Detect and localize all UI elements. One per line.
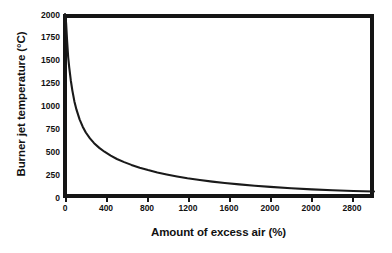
x-tick-label: 2800 <box>329 203 375 213</box>
plot-area <box>63 14 374 198</box>
y-tick-label: 1750 <box>14 32 60 42</box>
x-tick-label: 1200 <box>165 203 211 213</box>
y-tick-label: 2000 <box>14 10 60 20</box>
x-tick-label: 1600 <box>206 203 252 213</box>
y-tick-label: 250 <box>14 170 60 180</box>
y-tick-label: 0 <box>14 193 60 203</box>
y-tick-label: 1250 <box>14 78 60 88</box>
y-tick-label: 500 <box>14 147 60 157</box>
chart-figure: Burner jet temperature (°C) 0 250 500 75… <box>0 0 392 253</box>
x-tick-label: 2000 <box>288 203 334 213</box>
y-tick-label: 750 <box>14 124 60 134</box>
x-tick-mark <box>311 198 313 202</box>
x-tick-mark <box>270 198 272 202</box>
x-tick-mark <box>106 198 108 202</box>
x-tick-label: 0 <box>42 203 88 213</box>
x-tick-mark <box>188 198 190 202</box>
y-tick-label: 1000 <box>14 101 60 111</box>
y-tick-label: 1500 <box>14 55 60 65</box>
x-axis-title: Amount of excess air (%) <box>63 226 374 238</box>
x-axis-tick-labels: 0 400 800 1200 1600 2000 2000 2800 <box>0 203 392 219</box>
x-tick-mark <box>65 198 67 202</box>
x-tick-label: 400 <box>83 203 129 213</box>
x-tick-mark <box>147 198 149 202</box>
x-tick-mark <box>352 198 354 202</box>
data-curve <box>63 14 374 198</box>
x-tick-label: 800 <box>124 203 170 213</box>
x-tick-label: 2000 <box>247 203 293 213</box>
x-tick-mark <box>229 198 231 202</box>
